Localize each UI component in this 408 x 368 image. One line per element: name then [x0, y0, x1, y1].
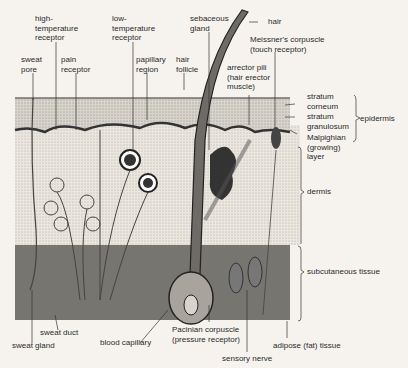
label-low-temperature-receptor: low- temperature receptor [112, 14, 155, 43]
label-adipose-tissue: adipose (fat) tissue [273, 341, 341, 351]
label-stratum-corneum: stratum corneum [307, 92, 338, 111]
label-hair: hair [268, 17, 281, 27]
label-high-temperature-receptor: high- temperature receptor [35, 14, 78, 43]
label-sweat-gland: sweat gland [12, 341, 55, 351]
label-hair-follicle: hair follicle [176, 55, 198, 74]
label-blood-capillary: blood capillary [100, 338, 151, 348]
label-malpighian-layer: Malpighian (growing) layer [307, 133, 346, 162]
label-dermis: dermis [307, 187, 331, 197]
label-meissner-corpuscle: Meissner's corpuscle (touch receptor) [250, 35, 324, 54]
label-pacinian-corpuscle: Pacinian corpuscle (pressure receptor) [172, 325, 240, 344]
label-sebaceous-gland: sebaceous gland [190, 14, 229, 33]
label-subcutaneous-tissue: subcutaneous tissue [307, 267, 380, 277]
label-sweat-duct: sweat duct [40, 328, 78, 338]
label-sweat-pore: sweat pore [21, 55, 42, 74]
meissner-corpuscle [271, 127, 281, 149]
label-sensory-nerve: sensory nerve [222, 354, 272, 364]
label-papillary-region: papillary region [136, 55, 166, 74]
label-pain-receptor: pain receptor [61, 55, 90, 74]
subcutaneous-layer [15, 245, 290, 320]
label-stratum-granulosum: stratum granulosum [307, 112, 349, 131]
label-epidermis: epidermis [360, 114, 395, 124]
label-arrector-pili: arrector pili (hair erector muscle) [227, 63, 270, 92]
